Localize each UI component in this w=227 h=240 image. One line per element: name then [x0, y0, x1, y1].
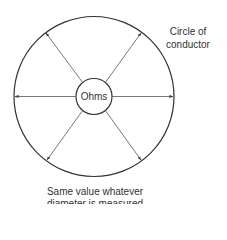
arrow-upper-left — [46, 33, 83, 83]
caption-line2: diameter is measured — [40, 197, 150, 204]
arrow-lower-left — [47, 110, 83, 160]
arrow-lower-right — [105, 110, 141, 160]
outer-label-line1: Circle of — [168, 25, 208, 38]
ohms-label: Ohms — [76, 90, 112, 103]
outer-label-line2: conductor — [166, 38, 210, 51]
arrow-upper-right — [105, 33, 141, 83]
